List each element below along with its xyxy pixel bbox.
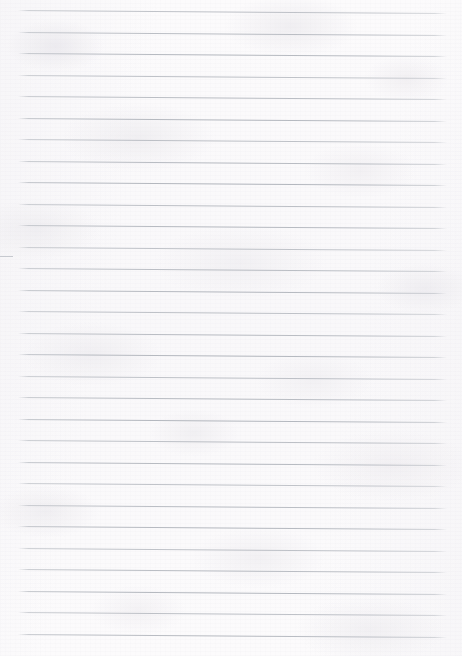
rule-line: [18, 462, 447, 466]
rule-line: [18, 591, 447, 595]
rule-line: [18, 225, 447, 229]
rule-line: [18, 526, 447, 530]
rule-line: [18, 376, 447, 380]
paper-vignette-layer: [0, 0, 462, 656]
rule-line: [18, 161, 447, 165]
left-edge-stub-mark: [0, 256, 13, 257]
paper-grain-vertical: [0, 0, 462, 656]
rule-line: [18, 204, 447, 208]
rule-line: [18, 53, 447, 57]
rule-line: [18, 354, 447, 358]
rule-line: [18, 548, 447, 552]
lined-paper-sheet: [0, 0, 462, 656]
rule-line: [18, 75, 447, 79]
rule-line: [18, 96, 447, 100]
rule-line: [18, 397, 447, 401]
paper-mottle-layer-top: [0, 0, 462, 656]
rule-line: [18, 505, 447, 509]
rule-line: [18, 290, 447, 294]
rule-line: [18, 182, 447, 186]
rule-line: [18, 10, 447, 14]
rule-line: [18, 247, 447, 251]
rule-line: [18, 118, 447, 122]
rule-line: [18, 634, 447, 638]
paper-mottle-layer-bottom: [0, 0, 462, 656]
rule-line: [18, 333, 447, 337]
rule-line: [18, 483, 447, 487]
rule-line: [18, 32, 447, 36]
rule-line: [18, 419, 447, 423]
rule-line: [18, 268, 447, 272]
paper-grain-horizontal: [0, 0, 462, 656]
rule-line: [18, 612, 447, 616]
rule-line: [18, 311, 447, 315]
rule-line: [18, 440, 447, 444]
rule-line: [18, 569, 447, 573]
ruled-line-group: [0, 0, 462, 656]
rule-line: [18, 139, 447, 143]
